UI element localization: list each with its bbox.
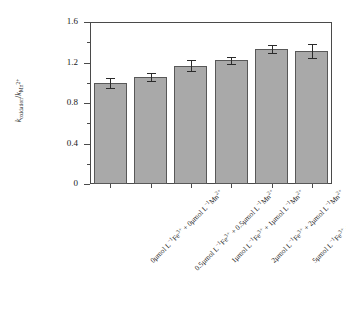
x-tick <box>272 184 273 188</box>
plot-area-frame <box>90 22 332 184</box>
x-tick <box>151 184 152 188</box>
y-axis-title: koxidation/kMn2+ <box>14 61 23 141</box>
y-tick-minor <box>87 164 90 165</box>
y-tick-major <box>84 63 90 64</box>
x-tick <box>231 184 232 188</box>
y-tick-label: 1.6 <box>0 17 78 26</box>
y-tick-major <box>84 144 90 145</box>
y-tick-major <box>84 184 90 185</box>
bar-chart-figure: 00.40.81.21.6 koxidation/kMn2+ 0μmol L−1… <box>0 0 346 332</box>
y-tick-label: 0 <box>0 179 78 188</box>
y-tick-major <box>84 22 90 23</box>
y-axis-title-sub-oxidation: oxidation <box>17 98 23 119</box>
y-tick-major <box>84 103 90 104</box>
y-tick-label: 0.8 <box>0 98 78 107</box>
y-tick-minor <box>87 42 90 43</box>
y-tick-label: 1.2 <box>0 58 78 67</box>
y-axis-tick-labels: 00.40.81.21.6 <box>0 0 80 332</box>
y-axis-title-sub-mn: Mn2+ <box>17 79 23 93</box>
y-tick-minor <box>87 83 90 84</box>
x-tick-label: 2μmol L−1Fe3+ + 2μmol L−1Mn2+ <box>270 189 346 265</box>
x-tick <box>110 184 111 188</box>
y-tick-minor <box>87 123 90 124</box>
x-tick <box>312 184 313 188</box>
y-tick-label: 0.4 <box>0 139 78 148</box>
x-tick <box>191 184 192 188</box>
